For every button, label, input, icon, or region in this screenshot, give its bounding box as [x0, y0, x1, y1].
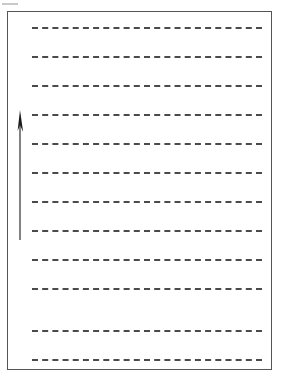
dashed-rule-line — [32, 172, 262, 174]
dashed-rule-line — [32, 85, 262, 87]
dashed-rule-line — [32, 114, 262, 116]
dashed-rule-line — [32, 330, 262, 332]
dashed-rule-line — [32, 27, 262, 29]
dashed-rule-line — [32, 230, 262, 232]
dashed-rule-line — [32, 56, 262, 58]
dashed-rule-line — [32, 143, 262, 145]
dashed-rule-line — [32, 359, 262, 361]
dashed-rule-line — [32, 288, 262, 290]
worksheet-page — [0, 0, 282, 382]
dashed-rule-lines-group — [0, 0, 282, 382]
dashed-rule-line — [32, 259, 262, 261]
dashed-rule-line — [32, 201, 262, 203]
